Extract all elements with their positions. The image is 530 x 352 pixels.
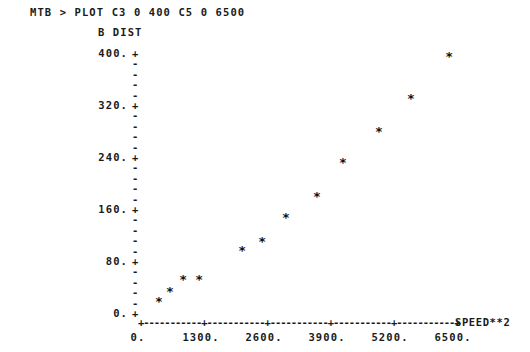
y-axis-tick-minor: - — [132, 235, 144, 245]
data-point-marker: * — [238, 244, 247, 255]
y-axis-tick-label: 0. — [113, 308, 128, 318]
data-point-marker: * — [165, 285, 174, 296]
y-axis-tick-major: 240.+ — [60, 152, 138, 162]
y-axis-tick-major: 320.+ — [60, 100, 138, 110]
x-axis-tick-label: 6500. — [434, 331, 471, 343]
x-axis-tick-label: 2600. — [245, 331, 282, 343]
x-axis-line: +-----------+-----------+-----------+---… — [138, 317, 460, 328]
y-axis-tick-label: 240. — [98, 152, 128, 162]
data-point-marker: * — [338, 157, 347, 168]
minitab-plot-screen: MTB > PLOT C3 0 400 C5 0 6500 B DIST 400… — [0, 0, 530, 352]
data-point-marker: * — [406, 92, 415, 103]
data-point-marker: * — [154, 296, 163, 307]
x-axis-tick-label: 0. — [131, 331, 146, 343]
y-axis-tick-major: 0.+ — [60, 308, 138, 318]
y-axis-tick-major: 400.+ — [60, 48, 138, 58]
y-axis-tick-minor: - — [132, 131, 144, 141]
y-axis-tick-minor: - — [132, 266, 144, 276]
x-axis-tick-label: 1300. — [182, 331, 219, 343]
y-axis-tick-label: 320. — [98, 100, 128, 110]
y-axis-tick-label: 160. — [98, 204, 128, 214]
plot-area: 400.+----320.+----240.+----160.+----80.+… — [0, 0, 530, 352]
y-axis-tick-minor: - — [132, 110, 144, 120]
y-axis-tick-label: 80. — [106, 256, 128, 266]
y-axis-tick-major: 160.+ — [60, 204, 138, 214]
y-axis-tick-major: 80.+ — [60, 256, 138, 266]
y-axis-tick-minor: - — [132, 162, 144, 172]
x-axis-tick-label: 5200. — [371, 331, 408, 343]
data-point-marker: * — [281, 211, 290, 222]
data-point-marker: * — [312, 191, 321, 202]
y-axis-tick-minor: - — [132, 58, 144, 68]
data-point-marker: * — [445, 51, 454, 62]
x-axis-title: SPEED**2 — [455, 317, 510, 328]
y-axis-tick-minor: - — [132, 287, 144, 297]
y-axis-tick-minor: - — [132, 214, 144, 224]
y-axis-tick-minor: - — [132, 79, 144, 89]
data-point-marker: * — [258, 235, 267, 246]
y-axis-tick-minor: - — [132, 183, 144, 193]
y-axis-tick-label: 400. — [98, 48, 128, 58]
data-point-marker: * — [195, 274, 204, 285]
data-point-marker: * — [374, 126, 383, 137]
data-point-marker: * — [179, 274, 188, 285]
x-axis-tick-label: 3900. — [308, 331, 345, 343]
